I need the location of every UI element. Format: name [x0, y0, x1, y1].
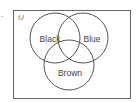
venn-diagram: U Black Blue Brown [0, 0, 136, 102]
set-label-blue: Blue [83, 34, 100, 44]
universe-box [14, 11, 131, 99]
set-label-brown: Brown [58, 68, 82, 78]
set-circle-brown [44, 40, 94, 90]
universe-label: U [18, 13, 24, 22]
set-label-black: Black [40, 34, 62, 44]
